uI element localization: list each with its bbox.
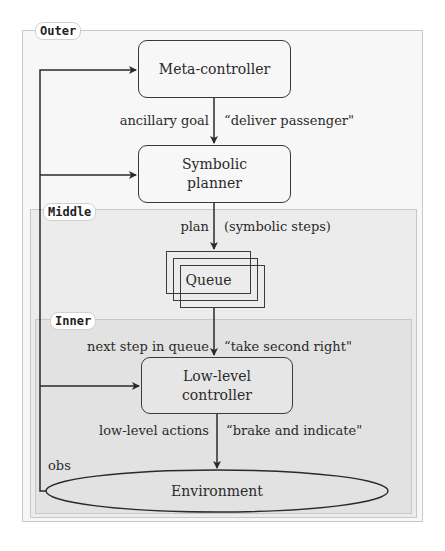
queue-label: Queue — [166, 272, 251, 288]
edge-label-low-level-actions: low-level actions — [99, 423, 209, 439]
meta-controller-node: Meta-controller — [138, 40, 291, 98]
edge-label-brake-and-indicate: “brake and indicate" — [226, 423, 362, 439]
low-level-controller-label-line1: Low-level — [183, 367, 251, 386]
edge-label-plan: plan — [180, 219, 209, 235]
edge-label-next-step-in-queue: next step in queue — [87, 339, 209, 355]
edge-label-take-second-right: “take second right" — [224, 339, 352, 355]
symbolic-planner-label-line1: Symbolic — [182, 155, 247, 174]
edge-label-symbolic-steps: (symbolic steps) — [224, 219, 331, 235]
low-level-controller-label-line2: controller — [182, 386, 252, 405]
symbolic-planner-label-line2: planner — [187, 174, 242, 193]
edge-label-ancillary-goal: ancillary goal — [120, 113, 209, 129]
edge-label-deliver-passenger: “deliver passenger" — [224, 113, 354, 129]
low-level-controller-node: Low-level controller — [141, 357, 293, 414]
edge-label-obs: obs — [48, 458, 71, 474]
meta-controller-label: Meta-controller — [159, 60, 270, 79]
environment-label: Environment — [47, 483, 387, 499]
symbolic-planner-node: Symbolic planner — [138, 145, 291, 203]
